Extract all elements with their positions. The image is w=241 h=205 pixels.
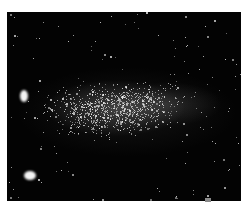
star xyxy=(64,111,65,112)
star xyxy=(170,106,171,107)
star xyxy=(162,121,164,123)
star xyxy=(115,114,116,115)
star xyxy=(212,141,213,142)
star xyxy=(113,115,114,116)
star xyxy=(150,97,152,99)
star xyxy=(85,123,86,124)
star xyxy=(137,126,138,127)
star xyxy=(129,100,130,101)
star xyxy=(100,97,102,99)
star xyxy=(195,92,196,93)
star xyxy=(85,110,86,111)
star xyxy=(185,37,186,38)
star xyxy=(114,95,115,96)
star xyxy=(74,103,75,104)
star xyxy=(81,120,82,121)
star xyxy=(214,161,215,162)
star xyxy=(95,41,96,42)
star xyxy=(111,111,112,112)
star xyxy=(112,92,113,93)
star xyxy=(126,117,127,118)
star xyxy=(81,113,82,114)
star xyxy=(129,132,130,133)
star xyxy=(121,97,122,98)
star xyxy=(108,96,109,97)
star xyxy=(99,125,100,126)
star xyxy=(88,106,89,107)
star xyxy=(75,111,76,112)
star xyxy=(176,81,177,82)
star xyxy=(83,81,84,82)
star xyxy=(142,119,143,120)
star xyxy=(129,127,130,128)
star xyxy=(93,115,94,116)
star xyxy=(145,110,146,111)
star xyxy=(188,73,189,74)
star xyxy=(183,123,185,125)
star xyxy=(105,110,106,111)
star xyxy=(191,97,192,98)
star xyxy=(99,128,100,129)
star xyxy=(187,152,188,153)
star xyxy=(95,94,96,95)
star xyxy=(103,102,104,103)
lower-left-bright-object xyxy=(24,171,36,180)
star xyxy=(47,120,48,121)
star xyxy=(70,111,71,112)
star-field-photo xyxy=(7,12,241,201)
star xyxy=(84,119,85,120)
star xyxy=(14,35,16,37)
star xyxy=(107,117,109,119)
star xyxy=(100,120,101,121)
star xyxy=(97,100,98,101)
star xyxy=(125,120,126,121)
star xyxy=(99,90,100,91)
star xyxy=(120,121,122,123)
star xyxy=(103,117,105,119)
star xyxy=(129,114,130,115)
star xyxy=(48,95,49,96)
star xyxy=(186,46,187,47)
star xyxy=(112,104,113,105)
star xyxy=(149,92,150,93)
star xyxy=(130,105,131,106)
star xyxy=(127,128,128,129)
star xyxy=(75,119,76,120)
star xyxy=(138,93,139,94)
star xyxy=(177,102,178,103)
star xyxy=(99,105,100,106)
star xyxy=(76,127,77,128)
star xyxy=(75,122,76,123)
star xyxy=(105,112,106,113)
star xyxy=(118,130,119,131)
star xyxy=(14,17,15,18)
star xyxy=(104,106,105,107)
star xyxy=(129,109,130,110)
star xyxy=(56,153,57,154)
star xyxy=(81,118,82,119)
star xyxy=(80,124,81,125)
star xyxy=(134,120,135,121)
star xyxy=(207,84,208,85)
star xyxy=(103,113,104,114)
star xyxy=(203,129,204,130)
star xyxy=(110,115,112,117)
star xyxy=(87,95,88,96)
star xyxy=(59,133,60,134)
star xyxy=(118,114,119,115)
star xyxy=(143,92,144,93)
star xyxy=(135,111,136,112)
star xyxy=(122,105,123,106)
star xyxy=(153,117,154,118)
star xyxy=(107,99,108,100)
star xyxy=(203,56,204,57)
star xyxy=(75,107,76,108)
star xyxy=(134,22,135,23)
star xyxy=(78,134,79,135)
star xyxy=(170,122,171,123)
star xyxy=(50,108,51,109)
star xyxy=(219,90,220,91)
star xyxy=(80,99,81,100)
star xyxy=(65,120,66,121)
star xyxy=(173,40,174,41)
